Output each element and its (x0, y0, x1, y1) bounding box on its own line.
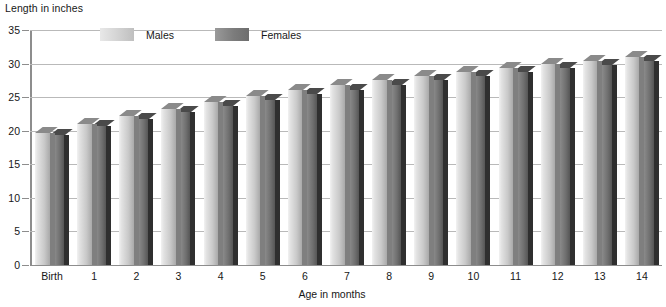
x-axis-tick-label: 9 (428, 270, 434, 282)
bar-side-face (485, 76, 490, 265)
x-axis-tick-label: 6 (302, 270, 308, 282)
bar-front-face (541, 64, 556, 265)
bar-side-face (359, 90, 364, 265)
bar-group (541, 30, 575, 265)
bar-side-face (513, 68, 518, 265)
legend-item-males: Males (100, 28, 174, 41)
x-axis-line (30, 265, 662, 266)
bar-group (77, 30, 111, 265)
bar-front-face (372, 80, 387, 265)
bar-males (161, 109, 176, 265)
bar-males (288, 90, 303, 265)
y-axis-title: Length in inches (5, 2, 83, 14)
bar-side-face (401, 85, 406, 265)
bar-group (372, 30, 406, 265)
bar-side-face (148, 119, 153, 265)
bar-males (541, 64, 556, 265)
bar-group (583, 30, 617, 265)
legend-swatch-icon (215, 28, 249, 41)
plot-area: 05101520253035 (30, 30, 662, 265)
bar-side-face (190, 112, 195, 265)
bar-side-face (471, 72, 476, 265)
bar-males (246, 96, 261, 265)
bar-males (204, 102, 219, 265)
bar-males (35, 133, 50, 265)
legend-label: Females (261, 29, 301, 41)
bar-side-face (387, 80, 392, 265)
bar-side-face (528, 72, 533, 265)
x-axis-tick-label: 7 (344, 270, 350, 282)
y-axis-tick (22, 164, 29, 165)
bar-front-face (625, 57, 640, 265)
bar-chart: Length in inches 05101520253035 MalesFem… (0, 0, 666, 307)
bar-side-face (443, 80, 448, 265)
x-axis-tick-label: 12 (552, 270, 564, 282)
y-axis-tick (22, 265, 29, 266)
bar-front-face (414, 76, 429, 265)
bar-group (414, 30, 448, 265)
y-axis-tick-label: 20 (8, 125, 20, 136)
y-axis-tick-label: 5 (14, 226, 20, 237)
bar-side-face (275, 100, 280, 265)
bar-males (119, 116, 134, 265)
bar-group (119, 30, 153, 265)
bar-group (288, 30, 322, 265)
bar-side-face (302, 90, 307, 265)
bar-side-face (654, 61, 659, 265)
x-axis-tick-label: 8 (386, 270, 392, 282)
bar-males (456, 72, 471, 265)
bar-front-face (583, 61, 598, 265)
bar-side-face (176, 109, 181, 265)
x-axis-tick-label: 3 (176, 270, 182, 282)
x-axis-tick-label: 14 (636, 270, 648, 282)
bar-front-face (288, 90, 303, 265)
bar-front-face (204, 102, 219, 265)
bar-group (204, 30, 238, 265)
bar-males (499, 68, 514, 265)
bar-front-face (499, 68, 514, 265)
bar-males (625, 57, 640, 265)
y-axis-tick-label: 15 (8, 159, 20, 170)
x-axis-tick-label: 2 (133, 270, 139, 282)
x-axis-tick-label: 1 (91, 270, 97, 282)
bar-side-face (233, 106, 238, 265)
x-axis-tick-label: 5 (260, 270, 266, 282)
bar-side-face (106, 126, 111, 265)
bar-males (372, 80, 387, 265)
bar-side-face (639, 57, 644, 265)
y-axis-tick (22, 231, 29, 232)
bar-males (330, 85, 345, 265)
bar-group (625, 30, 659, 265)
bar-side-face (50, 133, 55, 265)
bar-side-face (345, 85, 350, 265)
bar-side-face (555, 64, 560, 265)
x-axis-tick-label: 4 (218, 270, 224, 282)
bar-group (499, 30, 533, 265)
bar-side-face (570, 68, 575, 265)
bar-males (414, 76, 429, 265)
bar-group (456, 30, 490, 265)
y-axis-tick-label: 30 (8, 58, 20, 69)
bar-group (330, 30, 364, 265)
y-axis-tick-label: 25 (8, 92, 20, 103)
bar-side-face (134, 116, 139, 265)
legend-label: Males (146, 29, 174, 41)
y-axis-tick (22, 97, 29, 98)
bar-side-face (218, 102, 223, 265)
x-axis-tick-label: Birth (41, 270, 63, 282)
x-axis-tick-label: 10 (468, 270, 480, 282)
bar-side-face (92, 124, 97, 265)
bar-side-face (317, 94, 322, 265)
bar-side-face (612, 65, 617, 265)
x-axis-tick-label: 13 (594, 270, 606, 282)
bar-group (35, 30, 69, 265)
x-axis-title: Age in months (298, 288, 365, 300)
legend-item-females: Females (215, 28, 301, 41)
x-axis-tick-label: 11 (510, 270, 521, 282)
bar-group (246, 30, 280, 265)
bar-group (161, 30, 195, 265)
bar-front-face (161, 109, 176, 265)
bar-males (77, 124, 92, 265)
bar-front-face (246, 96, 261, 265)
bar-front-face (456, 72, 471, 265)
